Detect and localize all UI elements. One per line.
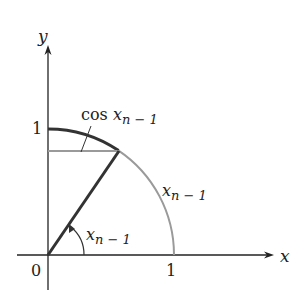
cos-label: cos xn − 1	[81, 105, 158, 127]
y-axis-label: y	[37, 26, 48, 46]
cos-leader-line	[81, 126, 91, 152]
angle-arc	[71, 227, 84, 255]
unit-circle-diagram: y x 0 1 1 cos xn − 1 xn − 1 xn − 1	[0, 0, 299, 305]
angle-label: xn − 1	[86, 225, 131, 247]
y-tick-1-label: 1	[32, 119, 42, 138]
x-tick-1-label: 1	[166, 261, 176, 280]
diagram-svg: y x 0 1 1 cos xn − 1 xn − 1 xn − 1	[0, 0, 299, 305]
origin-label: 0	[31, 261, 41, 280]
angle-arrow-icon	[69, 224, 75, 233]
arc-label: xn − 1	[162, 181, 207, 203]
x-axis-label: x	[280, 246, 290, 266]
